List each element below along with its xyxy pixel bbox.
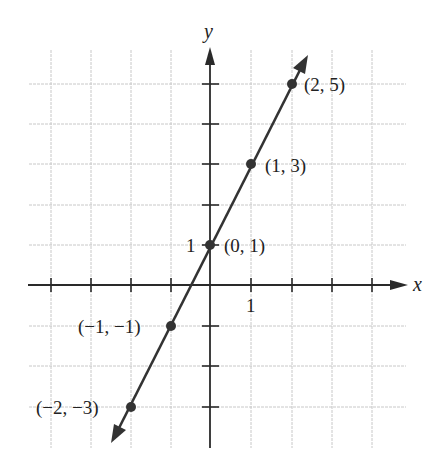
label-neg1-neg1: (−1, −1): [78, 316, 141, 338]
label-neg2-neg3: (−2, −3): [36, 397, 99, 419]
grid: [29, 50, 406, 448]
y-axis-label: y: [202, 20, 213, 43]
x-axis-label: x: [412, 273, 422, 295]
y-axis-arrow-icon: [205, 47, 215, 65]
y-tick-label-1: 1: [186, 235, 196, 256]
point-neg2-neg3: [126, 402, 136, 412]
point-2-5: [287, 79, 297, 89]
label-2-5: (2, 5): [304, 74, 345, 96]
x-tick-label-1: 1: [246, 295, 256, 316]
line-arrow-down-icon: [111, 424, 126, 443]
label-1-3: (1, 3): [265, 155, 306, 177]
line-arrow-up-icon: [293, 55, 308, 74]
coordinate-plane: x 1 y 1 (2, 5) (1, 3) (0, 1) (−1, −1): [0, 0, 441, 473]
label-0-1: (0, 1): [224, 235, 265, 257]
x-axis-arrow-icon: [390, 280, 408, 290]
point-neg1-neg1: [166, 321, 176, 331]
point-1-3: [246, 159, 256, 169]
x-axis: x 1: [28, 273, 422, 316]
point-0-1: [205, 240, 215, 250]
